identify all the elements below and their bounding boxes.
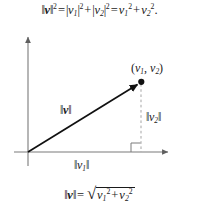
v2-label-close-bars: ‖ <box>158 110 161 124</box>
point-coordinate-label: (v1, v2) <box>131 61 163 76</box>
right-angle-marker <box>131 143 141 152</box>
bottom-equation: ‖v‖=√v12+v22 <box>0 186 199 203</box>
rad-v2-exponent: 2 <box>129 187 133 196</box>
horizontal-component-label: ‖v1‖ <box>74 158 89 173</box>
terminal-point-dot <box>138 79 144 85</box>
vec-label-close-bars: ‖ <box>68 103 71 117</box>
v1-label-close-bars: ‖ <box>86 158 89 172</box>
rad-plus: + <box>110 188 119 202</box>
vector-magnitude-label: ‖v‖ <box>60 103 71 118</box>
square-root-expression: √v12+v22 <box>87 186 135 203</box>
vertical-component-label: ‖v2‖ <box>146 110 161 125</box>
vector-v-arrow <box>28 85 138 153</box>
radicand: v12+v22 <box>96 187 135 203</box>
vector-norm-figure: ‖v‖2=|v1|2+|v2|2=v12+v22. (v1, v2) ‖v‖ <box>0 0 199 218</box>
point-close-paren: ) <box>159 61 163 75</box>
radical-sign-icon: √ <box>87 186 96 203</box>
bottom-equals: = <box>76 188 85 202</box>
